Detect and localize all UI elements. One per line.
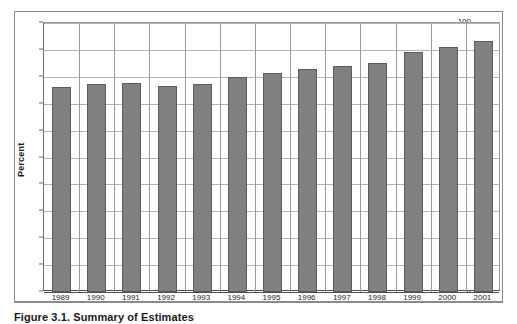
x-separator-1999 <box>431 23 432 292</box>
x-tick-label-1994: 1994 <box>227 293 245 302</box>
x-separator-1994 <box>255 23 256 292</box>
x-separator-2000 <box>466 23 467 292</box>
bar-1997 <box>333 66 352 292</box>
x-tick-label-1995: 1995 <box>263 293 281 302</box>
x-tick-label-1998: 1998 <box>368 293 386 302</box>
x-tick-label-2001: 2001 <box>474 293 492 302</box>
bar-1989 <box>52 87 71 292</box>
x-tick-label-1999: 1999 <box>403 293 421 302</box>
bar-2000 <box>439 47 458 292</box>
bar-1998 <box>368 63 387 292</box>
bar-1996 <box>298 69 317 292</box>
y-axis-title: Percent <box>14 120 28 200</box>
x-separator-1996 <box>325 23 326 292</box>
x-tick-label-1990: 1990 <box>87 293 105 302</box>
x-separator-1998 <box>396 23 397 292</box>
x-tick-label-1997: 1997 <box>333 293 351 302</box>
bar-1993 <box>193 84 212 292</box>
bar-1991 <box>122 83 141 292</box>
x-separator-1997 <box>360 23 361 292</box>
bar-2001 <box>474 41 493 292</box>
bar-1992 <box>158 86 177 292</box>
x-separator-1993 <box>220 23 221 292</box>
x-separator-1990 <box>114 23 115 292</box>
bar-1999 <box>404 52 423 292</box>
x-separator-1991 <box>149 23 150 292</box>
plot-area <box>43 22 500 291</box>
figure-caption: Figure 3.1. Summary of Estimates <box>14 311 514 324</box>
bar-1995 <box>263 73 282 292</box>
bar-1990 <box>87 84 106 292</box>
x-tick-label-1992: 1992 <box>157 293 175 302</box>
x-tick-label-1996: 1996 <box>298 293 316 302</box>
x-separator-1995 <box>290 23 291 292</box>
x-separator-1992 <box>185 23 186 292</box>
x-separator-1989 <box>79 23 80 292</box>
x-axis-label-group: 1989199019911992199319941995199619971998… <box>43 293 500 307</box>
x-tick-label-1993: 1993 <box>192 293 210 302</box>
figure-container: Percent 0102030405060708090100 198919901… <box>0 0 517 324</box>
x-tick-label-1989: 1989 <box>52 293 70 302</box>
bar-1994 <box>228 77 247 292</box>
x-tick-label-2000: 2000 <box>438 293 456 302</box>
caption-divider <box>14 302 503 303</box>
x-tick-label-1991: 1991 <box>122 293 140 302</box>
